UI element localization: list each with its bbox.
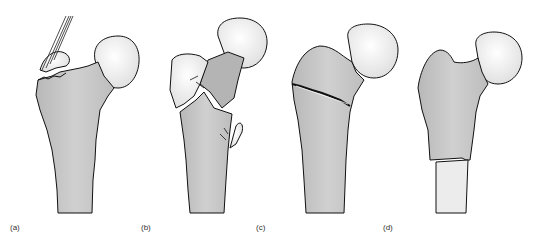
panel-label-d: (d) <box>383 223 393 232</box>
femur-body <box>292 46 364 213</box>
panel-c-femur <box>292 24 398 213</box>
avulsed-fragment <box>40 52 69 72</box>
femur-body <box>36 62 114 213</box>
panel-a-femur <box>36 16 139 213</box>
femur-shaft <box>180 92 232 213</box>
panel-label-a: (a) <box>10 223 20 232</box>
panel-label-b: (b) <box>141 223 151 232</box>
panel-d-femur <box>418 32 522 213</box>
femur-fracture-diagram <box>0 0 542 242</box>
panel-label-c: (c) <box>256 223 265 232</box>
panel-b-femur <box>170 18 267 213</box>
lesser-trochanter-fragment <box>230 123 243 148</box>
femur-shaft-displaced <box>436 160 468 213</box>
femur-proximal <box>418 50 488 160</box>
